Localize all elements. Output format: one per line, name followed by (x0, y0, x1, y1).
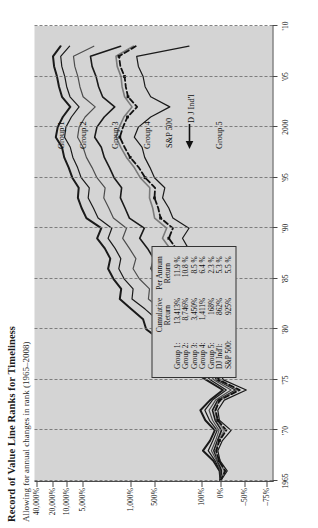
legend-row-name: S&P 500: (224, 336, 232, 373)
x-tick-label: '80 (281, 309, 290, 349)
series-label-group-2: Group 2 (79, 121, 88, 149)
series-label-dj-indl: D J Ind'l (187, 95, 196, 124)
y-tick-label: 0% (216, 488, 225, 528)
y-tick (37, 481, 38, 487)
gridline (35, 25, 273, 26)
series-marker (127, 95, 130, 98)
x-tick (273, 379, 278, 380)
series-label-group-3: Group 3 (111, 121, 120, 149)
y-tick-label: 100% (197, 488, 206, 528)
y-tick-label: 40,000% (32, 488, 41, 528)
x-tick (273, 126, 278, 127)
legend-header-blank (156, 336, 173, 373)
x-tick (273, 328, 278, 329)
y-tick-label: 500% (150, 488, 159, 528)
series-marker (118, 55, 121, 58)
y-tick (221, 481, 222, 487)
x-tick-label: '05 (281, 57, 290, 97)
x-tick (273, 278, 278, 279)
x-tick-label: '70 (281, 410, 290, 450)
x-tick-label: '90 (281, 208, 290, 248)
legend-row-per-annum: 5.5 % (224, 252, 232, 293)
y-tick (202, 481, 203, 487)
legend-header-cumulative-line2: Return (162, 305, 171, 325)
gridline (35, 429, 273, 430)
legend-row: S&P 500:925%5.5 % (224, 252, 232, 373)
series-label-group-1: Group 1 (57, 121, 66, 149)
x-tick (273, 429, 278, 430)
legend-header-cumulative: Cumulative Return (156, 294, 173, 337)
series-label-sp-500: S&P 500 (165, 118, 174, 148)
y-tick (245, 481, 246, 487)
x-tick (273, 227, 278, 228)
gridline (35, 76, 273, 77)
y-tick-label: 10,000% (62, 488, 71, 528)
legend-row-cumulative: 925% (224, 294, 232, 337)
x-tick-label: '95 (281, 158, 290, 198)
series-marker (129, 156, 132, 159)
series-marker (153, 197, 156, 200)
series-marker (159, 217, 162, 220)
y-tick (67, 481, 68, 487)
y-tick-label: –75% (262, 488, 271, 528)
gridline (35, 379, 273, 380)
chart-figure: Record of Value Line Ranks for Timelines… (2, 0, 318, 528)
legend-header-per-annum-line2: Return (162, 263, 171, 283)
legend-header-row: Cumulative Return Per Annum Return (156, 252, 173, 373)
x-tick-label: '75 (281, 360, 290, 400)
y-tick-label: –50% (240, 488, 249, 528)
series-marker (126, 116, 129, 119)
x-tick-label: 1965 (281, 461, 290, 501)
y-tick (131, 481, 132, 487)
series-label-group-4: Group 4 (143, 121, 152, 149)
y-tick-label: 1,000% (126, 488, 135, 528)
x-tick (273, 480, 278, 481)
series-label-group-5: Group 5 (215, 121, 224, 149)
y-tick (53, 481, 54, 487)
series-marker (167, 237, 170, 240)
x-tick (273, 177, 278, 178)
gridline (35, 177, 273, 178)
x-tick-label: 2000 (281, 107, 290, 147)
legend-header-per-annum: Per Annum Return (156, 252, 173, 293)
x-tick (273, 76, 278, 77)
x-tick (273, 25, 278, 26)
chart-title: Record of Value Line Ranks for Timelines… (6, 326, 17, 522)
x-tick-label: '85 (281, 259, 290, 299)
y-tick-label: 5,000% (78, 488, 87, 528)
x-axis-line (273, 25, 274, 482)
y-tick (267, 481, 268, 487)
chart-subtitle: Allowing for annual changes in rank (196… (21, 342, 31, 522)
y-tick (155, 481, 156, 487)
y-tick (83, 481, 84, 487)
legend-table: Cumulative Return Per Annum Return Group… (152, 246, 237, 378)
gridline (35, 227, 273, 228)
y-tick-label: 20,000% (48, 488, 57, 528)
series-marker (218, 399, 221, 402)
series-marker (218, 439, 221, 442)
x-tick-label: '10 (281, 6, 290, 46)
gridline (35, 126, 273, 127)
dj-indl-arrow-icon (185, 123, 195, 149)
